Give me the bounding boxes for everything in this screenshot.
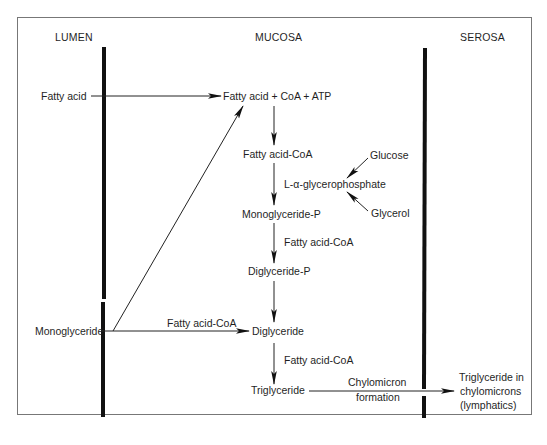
edge-label-mg-dg: Fatty acid-CoA [167, 317, 236, 329]
edge-label-chylo-1: Chylomicron [348, 376, 407, 388]
edge-label-chylo-2: formation [356, 391, 400, 403]
arrow-glycerol-to-glycerophosphate [347, 192, 368, 211]
fatty-acid-coa-node: Fatty acid-CoA [243, 148, 312, 160]
fat-absorption-diagram: LUMEN MUCOSA SEROSA Fatty acid Monoglyce… [0, 0, 547, 445]
fatty-acid-lumen: Fatty acid [41, 90, 87, 102]
activation-node: Fatty acid + CoA + ATP [223, 90, 331, 102]
triglyceride-chylomicrons-line3: (lymphatics) [460, 399, 517, 411]
mucosa-label: MUCOSA [255, 31, 302, 43]
diglyceride-p-node: Diglyceride-P [248, 265, 310, 277]
serosa-label: SEROSA [460, 31, 505, 43]
lumen-label: LUMEN [55, 31, 93, 43]
glucose-node: Glucose [370, 149, 409, 161]
monoglyceride-p-node: Monoglyceride-P [242, 208, 321, 220]
glycerophosphate-node: L-α-glycerophosphate [284, 178, 386, 190]
edge-label-dg-tg: Fatty acid-CoA [284, 354, 353, 366]
triglyceride-node: Triglyceride [251, 384, 305, 396]
arrow-monoglyceride-to-activation [113, 106, 243, 331]
glycerol-node: Glycerol [371, 207, 410, 219]
monoglyceride-lumen: Monoglyceride [35, 325, 103, 337]
diglyceride-node: Diglyceride [252, 325, 304, 337]
mucosa-serosa-membrane [424, 48, 425, 389]
edge-label-mgp-dgp: Fatty acid-CoA [284, 236, 353, 248]
triglyceride-chylomicrons-line2: chylomicrons [460, 385, 521, 397]
arrow-glucose-to-glycerophosphate [347, 158, 368, 178]
triglyceride-chylomicrons-line1: Triglyceride in [459, 371, 524, 383]
